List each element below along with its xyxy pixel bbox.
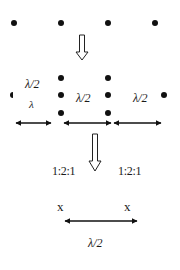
ratio-label: 1:2:1 xyxy=(52,165,75,177)
x-position-label: x xyxy=(57,200,64,213)
diagram-canvas xyxy=(0,0,180,270)
partial-dot xyxy=(10,92,13,98)
lattice-dot xyxy=(11,20,17,26)
ratio-label: 1:2:1 xyxy=(118,165,141,177)
lattice-dot xyxy=(161,92,167,98)
lattice-dot xyxy=(58,20,64,26)
lattice-dot xyxy=(105,75,111,81)
distance-label: λ/2 xyxy=(88,237,103,249)
lattice-dot xyxy=(58,110,64,116)
hollow-down-arrow-icon xyxy=(76,35,88,60)
wavelength-label: λ xyxy=(29,99,34,110)
lattice-dot xyxy=(58,92,64,98)
hollow-down-arrow-icon xyxy=(89,134,101,171)
lattice-dot xyxy=(105,92,111,98)
half-wavelength-label: λ/2 xyxy=(76,92,91,104)
lattice-dot xyxy=(152,20,158,26)
half-wavelength-label: λ/2 xyxy=(25,78,40,90)
lattice-dot xyxy=(58,75,64,81)
stage1-dot-row xyxy=(11,20,158,26)
x-position-label: x xyxy=(124,200,131,213)
lattice-dot xyxy=(105,20,111,26)
lattice-dot xyxy=(105,110,111,116)
half-wavelength-label: λ/2 xyxy=(133,92,148,104)
